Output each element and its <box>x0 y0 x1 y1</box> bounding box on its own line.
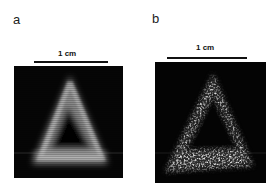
scale-bar-b <box>167 57 247 59</box>
triangle-ring-speckled-image <box>155 62 266 183</box>
panel-label-b: b <box>152 12 159 25</box>
scale-bar-label-b: 1 cm <box>196 44 214 52</box>
scale-bar-label-a: 1 cm <box>58 50 76 58</box>
panel-label-a: a <box>13 13 20 26</box>
triangle-ring-blurred-image <box>14 66 123 178</box>
scale-bar-a <box>34 61 108 63</box>
image-panel-b <box>155 62 266 183</box>
image-panel-a <box>14 66 123 178</box>
